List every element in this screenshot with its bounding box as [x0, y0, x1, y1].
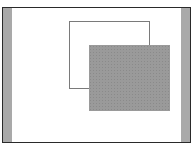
left-margin-strip — [3, 8, 12, 142]
shaded-rectangle — [89, 45, 170, 111]
diagram-frame — [2, 7, 191, 143]
right-margin-strip — [181, 8, 190, 142]
